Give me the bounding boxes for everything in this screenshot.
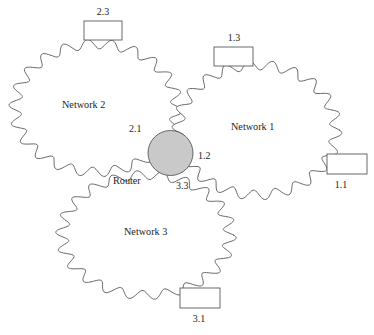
cloud-network-1: Network 1 (172, 60, 342, 199)
network-diagram: Network 2Network 1Network 3 2.31.31.13.1… (0, 0, 374, 335)
diagram-canvas: Network 2Network 1Network 3 2.31.31.13.1… (0, 0, 374, 335)
host-3-1[interactable]: 3.1 (180, 288, 220, 324)
cloud-label-network-1: Network 1 (231, 121, 274, 132)
host-2-3-box[interactable] (84, 21, 122, 40)
host-1-1[interactable]: 1.1 (327, 154, 367, 190)
iface-1-2-label: 1.2 (198, 150, 211, 161)
cloud-label-network-3: Network 3 (124, 226, 167, 237)
cloud-label-network-2: Network 2 (62, 99, 105, 110)
host-1-3-box[interactable] (214, 47, 253, 66)
iface-2-1-label: 2.1 (129, 123, 142, 134)
cloud-network-3: Network 3 (56, 171, 236, 299)
host-1-1-label: 1.1 (335, 179, 348, 190)
host-2-3-label: 2.3 (97, 6, 110, 17)
router-circle[interactable] (148, 131, 193, 176)
iface-3-3-label: 3.3 (176, 180, 189, 191)
host-1-1-box[interactable] (327, 154, 367, 174)
host-3-1-box[interactable] (180, 288, 220, 308)
host-1-3[interactable]: 1.3 (214, 32, 253, 66)
router-label: Router (113, 175, 141, 186)
host-3-1-label: 3.1 (193, 313, 206, 324)
host-2-3[interactable]: 2.3 (84, 6, 122, 40)
host-1-3-label: 1.3 (228, 32, 241, 43)
